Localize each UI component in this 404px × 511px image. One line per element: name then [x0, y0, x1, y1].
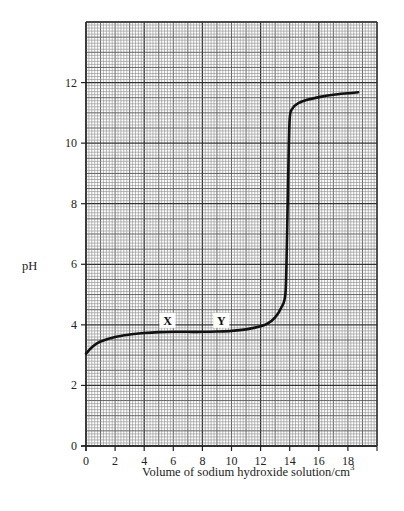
- tick-labels: 024681012024681012141618: [65, 76, 354, 468]
- titration-chart: 024681012024681012141618 XY pH Volume of…: [0, 0, 404, 511]
- y-tick-label: 12: [65, 76, 77, 90]
- y-tick-label: 10: [65, 136, 77, 150]
- y-axis-title: pH: [22, 259, 37, 273]
- point-label-x: X: [163, 314, 172, 328]
- y-tick-label: 6: [71, 257, 77, 271]
- x-tick-label: 0: [83, 454, 89, 468]
- y-tick-label: 2: [71, 378, 77, 392]
- y-tick-label: 4: [71, 318, 77, 332]
- grid: [86, 22, 377, 446]
- x-tick-label: 2: [112, 454, 118, 468]
- axes: [81, 22, 377, 451]
- point-label-y: Y: [217, 314, 226, 328]
- y-tick-label: 0: [71, 439, 77, 453]
- x-axis-title: Volume of sodium hydroxide solution/cm3: [142, 462, 355, 479]
- y-tick-label: 8: [71, 197, 77, 211]
- point-annotations: XY: [159, 313, 229, 328]
